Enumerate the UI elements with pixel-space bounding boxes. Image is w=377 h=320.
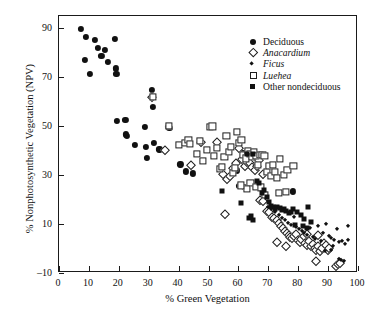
data-point-luehea <box>275 189 282 196</box>
legend-label: Deciduous <box>262 36 304 47</box>
x-tick <box>179 266 180 271</box>
data-point-ficus <box>291 214 296 219</box>
data-point-anacardium <box>187 160 196 169</box>
y-axis-title: % Nonphotosynthetic Vegetation (NPV) <box>24 34 35 264</box>
data-point-luehea <box>213 145 220 152</box>
data-point-deciduous <box>83 34 89 40</box>
scatter-plot-figure: % Nonphotosynthetic Vegetation (NPV) 010… <box>0 0 377 320</box>
open-diamond-icon <box>250 49 262 56</box>
legend-label: Other nondeciduous <box>262 81 341 92</box>
y-tick <box>59 224 64 225</box>
legend-label: Luehea <box>262 70 291 81</box>
data-point-other-nondeciduous <box>305 205 310 210</box>
data-point-luehea <box>165 123 172 130</box>
data-point-luehea <box>227 143 234 150</box>
data-point-deciduous <box>144 155 150 161</box>
data-point-luehea <box>196 137 203 144</box>
data-point-deciduous <box>142 124 148 130</box>
filled-circle-icon <box>250 39 262 45</box>
data-point-deciduous <box>124 133 130 139</box>
data-point-other-nondeciduous <box>302 217 307 222</box>
data-point-luehea <box>232 164 239 171</box>
x-tick <box>119 266 120 271</box>
data-point-luehea <box>238 136 245 143</box>
x-tick-label: 100 <box>350 277 365 288</box>
x-tick <box>358 266 359 271</box>
data-point-luehea <box>218 164 225 171</box>
data-point-other-nondeciduous <box>309 219 314 224</box>
x-tick-label: 90 <box>322 277 332 288</box>
open-square-icon <box>250 72 262 79</box>
x-axis-title: % Green Vegetation <box>58 293 357 304</box>
data-point-deciduous <box>290 188 296 194</box>
data-point-deciduous <box>87 70 93 76</box>
data-point-ficus <box>343 241 348 246</box>
legend-item-deciduous: Deciduous <box>250 36 341 47</box>
data-point-deciduous <box>82 57 88 63</box>
x-tick-label: 30 <box>143 277 153 288</box>
data-point-ficus <box>345 223 350 228</box>
data-point-other-nondeciduous <box>257 181 262 186</box>
data-point-other-nondeciduous <box>239 201 244 206</box>
x-tick-label: 10 <box>83 277 93 288</box>
data-point-luehea <box>234 129 241 136</box>
data-point-deciduous <box>122 117 128 123</box>
data-point-deciduous <box>114 118 120 124</box>
legend-label: Anacardium <box>262 47 310 58</box>
legend-item-anacardium: Anacardium <box>250 47 341 58</box>
data-point-ficus <box>316 224 321 229</box>
data-point-luehea <box>203 147 210 154</box>
data-point-anacardium <box>161 145 170 154</box>
x-tick <box>268 266 269 271</box>
y-tick-label: 50 <box>24 120 52 131</box>
x-tick-label: 70 <box>262 277 272 288</box>
data-point-ficus <box>331 244 336 249</box>
x-tick <box>298 266 299 271</box>
data-point-other-nondeciduous <box>245 151 250 156</box>
data-point-deciduous <box>113 71 119 77</box>
data-point-other-nondeciduous <box>248 214 253 219</box>
data-point-other-nondeciduous <box>250 152 255 157</box>
y-tick-label: 30 <box>24 169 52 180</box>
legend-label: Ficus <box>262 58 284 69</box>
data-point-deciduous <box>112 36 118 42</box>
data-point-luehea <box>237 182 244 189</box>
data-point-deciduous <box>91 37 97 43</box>
data-point-deciduous <box>105 59 111 65</box>
data-point-ficus <box>335 227 340 232</box>
data-point-luehea <box>149 94 156 101</box>
data-point-luehea <box>211 152 218 159</box>
data-point-luehea <box>255 161 262 168</box>
data-point-deciduous <box>95 45 101 51</box>
y-tick <box>59 28 64 29</box>
x-tick-label: 80 <box>292 277 302 288</box>
y-tick-label: 70 <box>24 71 52 82</box>
filled-diamond-icon <box>250 62 262 65</box>
data-point-deciduous <box>150 104 156 110</box>
data-point-ficus <box>346 237 351 242</box>
x-tick <box>149 266 150 271</box>
legend-item-other-nondeciduous: Other nondeciduous <box>250 81 341 92</box>
data-point-deciduous <box>102 47 108 53</box>
y-tick-label: 90 <box>24 22 52 33</box>
y-tick <box>59 126 64 127</box>
x-tick <box>59 266 60 271</box>
data-point-deciduous <box>78 26 84 32</box>
data-point-luehea <box>209 123 216 130</box>
data-point-ficus <box>321 230 326 235</box>
data-point-luehea <box>200 157 207 164</box>
data-point-deciduous <box>190 170 196 176</box>
data-point-deciduous <box>151 140 157 146</box>
data-point-ficus <box>324 222 329 227</box>
data-point-deciduous <box>132 142 138 148</box>
y-tick-label: –10 <box>24 267 52 278</box>
data-point-luehea <box>277 156 284 163</box>
data-point-deciduous <box>177 161 183 167</box>
data-point-anacardium <box>311 256 320 265</box>
x-tick <box>209 266 210 271</box>
x-tick-label: 20 <box>113 277 123 288</box>
data-point-deciduous <box>143 144 149 150</box>
data-point-other-nondeciduous <box>304 226 309 231</box>
y-tick-label: 10 <box>24 218 52 229</box>
y-tick <box>59 175 64 176</box>
